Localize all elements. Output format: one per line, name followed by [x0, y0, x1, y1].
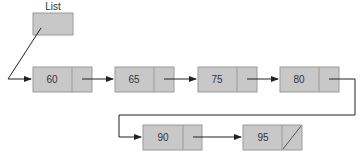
node-95: 95 — [243, 125, 302, 150]
node-value: 90 — [157, 132, 169, 143]
node-value: 65 — [128, 74, 140, 85]
node-value: 95 — [257, 132, 269, 143]
node-value: 75 — [211, 74, 223, 85]
list-head-label: List — [45, 1, 61, 12]
node-box — [243, 125, 302, 150]
linked-list-diagram: List 60 65 75 80 90 95 — [0, 0, 360, 162]
node-value: 60 — [46, 74, 58, 85]
list-head: List — [33, 1, 73, 35]
node-value: 80 — [293, 74, 305, 85]
